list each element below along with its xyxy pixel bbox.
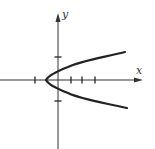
x-axis-arrow-icon xyxy=(134,78,143,83)
parabola-chart: y x xyxy=(0,0,155,149)
y-axis-arrow-icon xyxy=(56,13,61,22)
y-axis-label: y xyxy=(61,8,69,21)
x-axis-label: x xyxy=(136,64,143,77)
